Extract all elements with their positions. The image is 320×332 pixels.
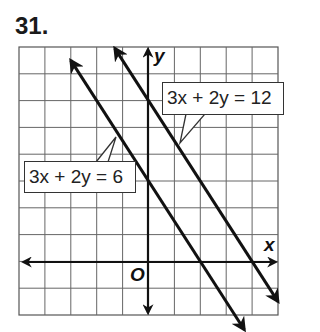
label-line-3x-2y-6: 3x + 2y = 6 [24, 161, 136, 193]
y-axis-label: y [154, 45, 165, 67]
origin-label: O [130, 264, 145, 286]
label-line-3x-2y-12: 3x + 2y = 12 [162, 82, 284, 115]
x-axis-label: x [264, 234, 275, 256]
